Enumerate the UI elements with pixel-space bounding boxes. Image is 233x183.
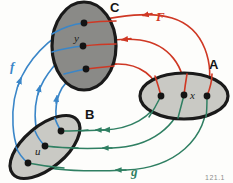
element-dot[interactable]: [181, 92, 188, 99]
element-dot[interactable]: [204, 93, 211, 100]
f-arc-2-head: [38, 86, 40, 94]
element-label-u: u: [35, 145, 41, 157]
element-label-x: x: [189, 89, 195, 101]
element-dot[interactable]: [42, 143, 49, 150]
element-label-y: y: [73, 32, 79, 44]
set-label-A: A: [209, 57, 219, 72]
element-dot[interactable]: [58, 128, 65, 135]
element-dot[interactable]: [158, 93, 165, 100]
set-mapping-diagram: C A B y x u F f g 121.1: [0, 0, 233, 183]
set-label-B: B: [85, 107, 94, 122]
element-dot[interactable]: [81, 20, 88, 27]
set-label-C: C: [110, 0, 120, 15]
mapping-label-g: g: [130, 164, 138, 179]
mapping-label-f: f: [10, 59, 16, 74]
mapping-label-F: F: [155, 9, 165, 24]
element-dot[interactable]: [80, 43, 87, 50]
figure-number: 121.1: [205, 174, 225, 181]
element-dot[interactable]: [25, 160, 32, 167]
f-arc-3-head: [56, 96, 57, 103]
element-dot[interactable]: [83, 66, 90, 73]
diagram-canvas: C A B y x u F f g 121.1: [0, 0, 233, 183]
